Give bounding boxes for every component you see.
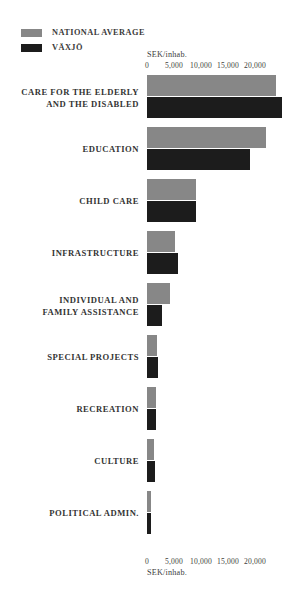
bar-vaxjo <box>147 461 155 482</box>
bar-pair <box>147 280 282 332</box>
bar-vaxjo <box>147 253 178 274</box>
category-label: INFRASTRUCTURE <box>0 248 139 260</box>
bar-national-average <box>147 283 170 304</box>
bar-national-average <box>147 75 276 96</box>
bar-national-average <box>147 387 156 408</box>
bar-national-average <box>147 335 157 356</box>
axis-bottom: 05,00010,00015,00020,000 SEK/inhab. <box>147 556 282 578</box>
bar-pair <box>147 228 282 280</box>
legend-label-vaxjo: VÄXJÖ <box>52 43 83 52</box>
bar-vaxjo <box>147 305 162 326</box>
bar-national-average <box>147 127 266 148</box>
axis-bottom-ticks: 05,00010,00015,00020,000 <box>147 556 282 567</box>
bar-pair <box>147 176 282 228</box>
bar-pair <box>147 436 282 488</box>
bar-chart: NATIONAL AVERAGE VÄXJÖ SEK/inhab. 05,000… <box>0 0 282 603</box>
axis-top-tick-4: 20,000 <box>244 60 266 71</box>
category-label: CHILD CARE <box>0 196 139 208</box>
bar-pair <box>147 488 282 540</box>
category-label: SPECIAL PROJECTS <box>0 352 139 364</box>
axis-bottom-tick-2: 10,000 <box>190 556 212 567</box>
bar-group: SPECIAL PROJECTS <box>0 332 282 384</box>
bar-vaxjo <box>147 201 196 222</box>
bar-pair <box>147 384 282 436</box>
category-label: RECREATION <box>0 404 139 416</box>
axis-top-tick-2: 10,000 <box>190 60 212 71</box>
bar-vaxjo <box>147 149 250 170</box>
axis-bottom-tick-4: 20,000 <box>244 556 266 567</box>
category-label: CARE FOR THE ELDERLY AND THE DISABLED <box>0 87 139 110</box>
bar-national-average <box>147 179 196 200</box>
axis-top-ticks: 05,00010,00015,00020,000 <box>147 60 282 71</box>
bar-vaxjo <box>147 409 156 430</box>
category-label: CULTURE <box>0 456 139 468</box>
bar-group: INDIVIDUAL AND FAMILY ASSISTANCE <box>0 280 282 332</box>
axis-bottom-tick-3: 15,000 <box>217 556 239 567</box>
category-label: INDIVIDUAL AND FAMILY ASSISTANCE <box>0 295 139 318</box>
bar-vaxjo <box>147 357 158 378</box>
axis-bottom-tick-1: 5,000 <box>165 556 183 567</box>
bar-group: INFRASTRUCTURE <box>0 228 282 280</box>
bar-pair <box>147 332 282 384</box>
bar-group: CHILD CARE <box>0 176 282 228</box>
axis-top: SEK/inhab. 05,00010,00015,00020,000 <box>147 49 282 71</box>
bar-pair <box>147 72 282 124</box>
axis-top-unit-label: SEK/inhab. <box>147 49 282 60</box>
bar-national-average <box>147 439 154 460</box>
axis-top-tick-0: 0 <box>145 60 149 71</box>
legend-swatch-national-average <box>21 29 42 37</box>
bar-national-average <box>147 491 151 512</box>
bar-national-average <box>147 231 175 252</box>
legend-label-national-average: NATIONAL AVERAGE <box>52 28 145 37</box>
plot-area: CARE FOR THE ELDERLY AND THE DISABLEDEDU… <box>0 72 282 542</box>
axis-bottom-unit-label: SEK/inhab. <box>147 567 282 578</box>
bar-pair <box>147 124 282 176</box>
axis-bottom-tick-0: 0 <box>145 556 149 567</box>
axis-top-tick-3: 15,000 <box>217 60 239 71</box>
legend-swatch-vaxjo <box>21 44 42 52</box>
bar-group: CULTURE <box>0 436 282 488</box>
bar-group: CARE FOR THE ELDERLY AND THE DISABLED <box>0 72 282 124</box>
category-label: POLITICAL ADMIN. <box>0 508 139 520</box>
bar-group: RECREATION <box>0 384 282 436</box>
legend-item-national-average: NATIONAL AVERAGE <box>21 26 171 39</box>
bar-vaxjo <box>147 97 282 118</box>
bar-group: POLITICAL ADMIN. <box>0 488 282 540</box>
axis-top-tick-1: 5,000 <box>165 60 183 71</box>
bar-vaxjo <box>147 513 151 534</box>
category-label: EDUCATION <box>0 144 139 156</box>
bar-group: EDUCATION <box>0 124 282 176</box>
